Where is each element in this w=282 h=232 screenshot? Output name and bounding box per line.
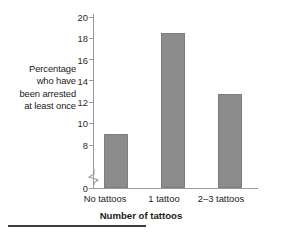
bar-2-3-tattoos [218, 94, 242, 188]
y-tickmark-14 [89, 80, 93, 81]
y-tick-label-8: 8 [66, 141, 88, 150]
axis-break-icon [88, 169, 99, 185]
y-axis-label-line-1: Percentage [2, 63, 76, 75]
y-tick-label-10: 10 [66, 119, 88, 128]
y-axis-label: Percentage who have been arrested at lea… [2, 63, 76, 112]
bar-1-tattoo [161, 33, 185, 188]
y-tickmark-0 [89, 188, 93, 189]
y-tick-label-12: 12 [66, 98, 88, 107]
y-axis-label-line-2: who have [2, 75, 76, 87]
y-tickmark-10 [89, 123, 93, 124]
x-axis-line [93, 188, 258, 189]
y-tick-label-0: 0 [66, 184, 88, 193]
bar-no-tattoos [104, 134, 128, 188]
y-axis-label-line-4: at least once [2, 100, 76, 112]
x-tick-label-2-3-tattoos: 2–3 tattoos [184, 194, 258, 203]
y-tickmark-20 [89, 17, 93, 18]
y-axis-line [93, 14, 94, 189]
footer-divider [8, 225, 146, 227]
x-axis-title: Number of tattoos [0, 210, 282, 221]
y-tickmark-16 [89, 59, 93, 60]
plot-area [93, 14, 258, 189]
y-tick-label-20: 20 [66, 13, 88, 22]
y-tick-label-16: 16 [66, 56, 88, 65]
y-tickmark-18 [89, 38, 93, 39]
bar-chart-figure: Percentage who have been arrested at lea… [0, 0, 282, 232]
y-tickmark-8 [89, 145, 93, 146]
y-tick-label-18: 18 [66, 34, 88, 43]
y-tickmark-12 [89, 102, 93, 103]
y-axis-label-line-3: been arrested [2, 88, 76, 100]
y-tick-label-14: 14 [66, 77, 88, 86]
